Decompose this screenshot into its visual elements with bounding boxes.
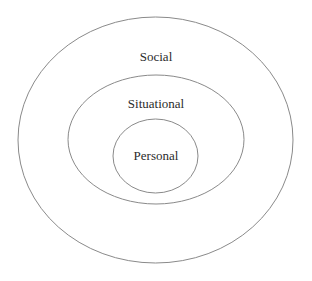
diagram-svg-canvas <box>0 0 312 281</box>
ring-label-social: Social <box>0 49 312 64</box>
middle-ring-situational <box>68 75 244 204</box>
concentric-circles-diagram: Social Situational Personal <box>0 0 312 281</box>
ring-label-personal: Personal <box>0 148 312 163</box>
ring-label-situational: Situational <box>0 96 312 111</box>
